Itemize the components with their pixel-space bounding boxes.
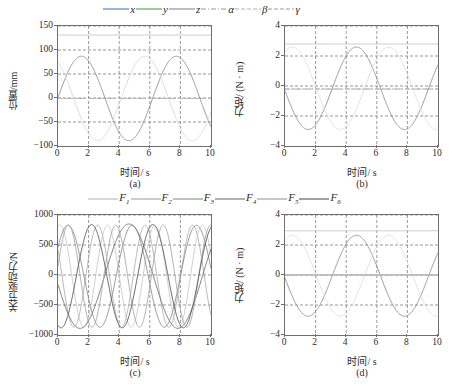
x-tick-mark — [406, 334, 407, 337]
x-tick-label: 6 — [146, 148, 151, 158]
data-series-F1 — [285, 235, 438, 316]
y-tick-label: 4 — [240, 209, 280, 219]
legend-swatch — [88, 196, 118, 202]
x-tick-label: 4 — [343, 148, 348, 158]
y-tick-label: 0 — [240, 269, 280, 279]
panel-c: 关节驱动力/N 时间/ s (c) −1000−5000500100002468… — [0, 206, 225, 392]
y-tick-label: −4 — [240, 329, 280, 339]
panel-a-plot — [57, 25, 212, 147]
legend-entry: F3 — [173, 192, 215, 206]
y-tick-mark — [281, 85, 284, 86]
x-tick-mark — [315, 145, 316, 148]
x-tick-mark — [284, 334, 285, 337]
legend-entry: F2 — [131, 192, 173, 206]
y-tick-mark — [54, 274, 57, 275]
y-tick-label: −50 — [13, 116, 53, 126]
x-tick-label: 6 — [373, 337, 378, 347]
y-tick-label: 0 — [240, 80, 280, 90]
panel-b-plot — [284, 25, 439, 147]
x-tick-mark — [149, 334, 150, 337]
y-tick-label: 150 — [13, 20, 53, 30]
x-tick-mark — [179, 334, 180, 337]
legend-swatch — [235, 6, 261, 12]
y-tick-mark — [54, 97, 57, 98]
legend-swatch — [103, 6, 129, 12]
x-tick-label: 4 — [116, 337, 121, 347]
legend-entry: γ — [268, 4, 300, 15]
x-tick-mark — [57, 145, 58, 148]
x-tick-label: 6 — [373, 148, 378, 158]
x-tick-label: 4 — [343, 337, 348, 347]
y-tick-mark — [54, 244, 57, 245]
panel-b-caption: (b) — [332, 178, 392, 189]
x-tick-label: 10 — [205, 337, 215, 347]
x-tick-label: 10 — [205, 148, 215, 158]
legend-label: γ — [294, 4, 300, 15]
legend-label: F6 — [329, 192, 341, 206]
plot-canvas — [285, 215, 438, 335]
panel-d-xlabel: 时间/ s — [322, 353, 402, 368]
legend-label: β — [261, 4, 268, 15]
legend-swatch — [169, 6, 195, 12]
x-tick-mark — [437, 145, 438, 148]
x-tick-label: 4 — [116, 148, 121, 158]
y-tick-mark — [54, 214, 57, 215]
legend-swatch — [173, 196, 203, 202]
legend-label: F3 — [203, 192, 215, 206]
y-tick-label: −4 — [240, 140, 280, 150]
y-tick-mark — [281, 274, 284, 275]
y-tick-mark — [54, 304, 57, 305]
legend-entry: z — [169, 4, 201, 15]
legend-top: xyzαβγ — [52, 2, 352, 16]
plot-canvas — [58, 26, 211, 146]
legend-entry: F4 — [215, 192, 257, 206]
legend-swatch — [201, 6, 227, 12]
x-tick-mark — [88, 334, 89, 337]
x-tick-label: 0 — [282, 148, 287, 158]
panel-b-xlabel: 时间/ s — [322, 164, 402, 179]
y-tick-label: −500 — [13, 299, 53, 309]
y-tick-label: 4 — [240, 20, 280, 30]
x-tick-label: 10 — [432, 337, 442, 347]
x-tick-label: 10 — [432, 148, 442, 158]
x-tick-mark — [57, 334, 58, 337]
y-tick-mark — [54, 49, 57, 50]
x-tick-mark — [345, 334, 346, 337]
x-tick-mark — [179, 145, 180, 148]
legend-label: F5 — [287, 192, 299, 206]
panel-c-plot — [57, 214, 212, 336]
y-tick-mark — [54, 73, 57, 74]
figure-root: xyzαβγ 位置/mm 时间/ s (a) −100−500501001500… — [0, 0, 455, 392]
panel-c-xlabel: 时间/ s — [95, 353, 175, 368]
x-tick-mark — [345, 145, 346, 148]
y-tick-label: 1000 — [13, 209, 53, 219]
x-tick-mark — [149, 145, 150, 148]
legend-label: F2 — [161, 192, 173, 206]
legend-entry: F6 — [299, 192, 341, 206]
panel-d: 力矩/ (N · m) 时间/ s (d) −4−20240246810 — [228, 206, 455, 392]
y-tick-mark — [281, 214, 284, 215]
x-tick-label: 8 — [404, 337, 409, 347]
legend-entry: α — [201, 4, 235, 15]
y-tick-mark — [54, 121, 57, 122]
x-tick-mark — [210, 334, 211, 337]
panel-a-caption: (a) — [105, 178, 165, 189]
x-tick-label: 8 — [177, 148, 182, 158]
y-tick-mark — [281, 55, 284, 56]
legend-bottom: F1F2F3F4F5F6 — [70, 192, 360, 206]
y-tick-label: 2 — [240, 50, 280, 60]
y-tick-label: 500 — [13, 239, 53, 249]
y-tick-label: −2 — [240, 110, 280, 120]
legend-entry: F1 — [88, 192, 130, 206]
panel-d-plot — [284, 214, 439, 336]
x-tick-mark — [284, 145, 285, 148]
x-tick-label: 0 — [282, 337, 287, 347]
legend-entry: β — [235, 4, 268, 15]
x-tick-label: 6 — [146, 337, 151, 347]
y-tick-label: −1000 — [13, 329, 53, 339]
x-tick-mark — [376, 334, 377, 337]
panel-d-caption: (d) — [332, 367, 392, 378]
x-tick-mark — [406, 145, 407, 148]
data-series-y — [285, 47, 438, 130]
y-tick-mark — [54, 25, 57, 26]
